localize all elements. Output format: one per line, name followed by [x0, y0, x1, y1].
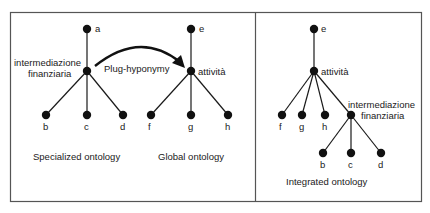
node-g-integrated	[298, 111, 306, 119]
label-attivita-integrated: attività	[321, 66, 349, 77]
label-e-integrated: e	[321, 23, 326, 34]
label-attivita: attività	[198, 66, 226, 77]
label-d-integrated: d	[378, 159, 383, 170]
label-finanziaria: finanziaria	[28, 68, 72, 79]
node-g	[187, 111, 195, 119]
node-e-integrated	[310, 25, 318, 33]
label-b: b	[43, 121, 48, 132]
arrow-label: Plug-hyponymy	[104, 63, 170, 74]
node-f	[147, 111, 155, 119]
label-f-integrated: f	[279, 121, 282, 132]
label-g-integrated: g	[299, 121, 304, 132]
caption-integrated: Integrated ontology	[286, 176, 368, 187]
node-c	[83, 111, 91, 119]
plug-hyponymy-arrow: Plug-hyponymy	[95, 47, 185, 74]
node-e	[187, 25, 195, 33]
label-h-integrated: h	[322, 121, 327, 132]
global-ontology: e attività f g h Global ontology	[147, 23, 232, 162]
node-h-integrated	[321, 111, 329, 119]
label-a: a	[95, 23, 101, 34]
integrated-ontology: e attività f g h intermediazione finanzi…	[278, 23, 415, 187]
label-intermediazione: intermediazione	[14, 57, 81, 68]
label-f: f	[148, 121, 151, 132]
label-c: c	[84, 121, 89, 132]
label-h: h	[225, 121, 230, 132]
label-c-integrated: c	[348, 159, 353, 170]
node-intermediazione	[83, 67, 91, 75]
node-intermediazione-integrated	[347, 111, 355, 119]
caption-global: Global ontology	[158, 151, 224, 162]
label-b-integrated: b	[320, 159, 325, 170]
node-b	[42, 111, 50, 119]
node-c-integrated	[347, 149, 355, 157]
label-d: d	[120, 121, 125, 132]
label-intermediazione-integrated: intermediazione	[348, 99, 415, 110]
node-attivita	[187, 67, 195, 75]
node-a	[83, 25, 91, 33]
node-d-integrated	[377, 149, 385, 157]
node-h	[224, 111, 232, 119]
node-b-integrated	[319, 149, 327, 157]
label-g: g	[188, 121, 193, 132]
node-f-integrated	[278, 111, 286, 119]
label-e: e	[199, 23, 204, 34]
ontology-diagram: a intermediazione finanziaria b c d Spec…	[0, 0, 430, 213]
caption-specialized: Specialized ontology	[33, 151, 120, 162]
label-finanziaria-integrated: finanziaria	[361, 110, 405, 121]
node-attivita-integrated	[310, 67, 318, 75]
node-d	[119, 111, 127, 119]
specialized-ontology: a intermediazione finanziaria b c d Spec…	[14, 23, 127, 162]
